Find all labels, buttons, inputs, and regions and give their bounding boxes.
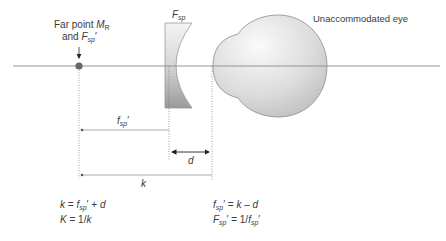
far-point-label: Far point MR — [54, 19, 110, 31]
spectacle-lens-shape — [165, 23, 192, 108]
eye-label: Unaccommodated eye — [313, 13, 408, 25]
fsp-line-start-dot — [81, 129, 84, 132]
formula-Fsp: Fsp′ = 1/fsp′ — [213, 214, 260, 226]
far-point-dot — [75, 62, 82, 69]
formula-K: K = 1/k — [60, 214, 91, 226]
formula-fsp: fsp′ = k – d — [213, 199, 258, 211]
lens-label: Fsp — [172, 9, 186, 21]
d-dimension-label: d — [188, 155, 194, 167]
k-dimension-label: k — [141, 178, 146, 190]
formula-k: k = fsp′ + d — [60, 199, 105, 211]
fsp-dimension-label: fsp′ — [117, 115, 129, 127]
k-line-start-dot — [81, 174, 84, 177]
far-point-label-line2: and Fsp′ — [62, 31, 97, 43]
